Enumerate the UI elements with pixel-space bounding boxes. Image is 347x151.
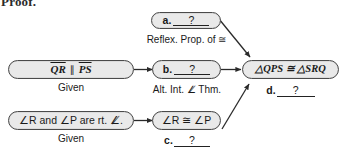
reason-d: d. ? — [242, 84, 339, 97]
statement-box-c[interactable]: ∠R ≅ ∠P — [152, 111, 221, 130]
parallel-symbol: ∥ — [70, 65, 75, 75]
statement-box-given-2[interactable]: ∠R and ∠P are rt. ∠̸. — [8, 111, 134, 130]
segment-ps: PS — [79, 64, 92, 75]
blank-d-value: ? — [277, 84, 315, 97]
blank-b: b. ? — [163, 64, 210, 76]
given-2-statement: ∠R and ∠P are rt. ∠̸. — [19, 115, 123, 126]
blank-b-prefix: b. — [163, 64, 172, 75]
reason-a: Reflex. Prop. of ≅ — [137, 34, 236, 45]
c-statement: ∠R ≅ ∠P — [162, 115, 211, 126]
blank-c-prefix: c. — [164, 134, 173, 146]
given-1-statement: QR ∥ PS — [50, 64, 91, 75]
blank-a: a. ? — [163, 15, 210, 27]
statement-box-conclusion[interactable]: △QPS ≅ △SRQ — [242, 60, 339, 79]
blank-d-prefix: d. — [266, 84, 275, 96]
conclusion-statement: △QPS ≅ △SRQ — [255, 64, 326, 75]
blank-a-value: ? — [173, 15, 209, 27]
segment-qr: QR — [50, 64, 65, 75]
statement-box-a[interactable]: a. ? — [151, 12, 221, 29]
statement-box-b[interactable]: b. ? — [152, 60, 221, 79]
statement-box-given-1[interactable]: QR ∥ PS — [8, 60, 134, 79]
reason-given-1: Given — [8, 82, 134, 93]
reason-given-2: Given — [8, 133, 134, 144]
reason-c: c. ? — [148, 134, 226, 147]
blank-b-value: ? — [174, 64, 210, 76]
blank-a-prefix: a. — [163, 15, 172, 26]
blank-c-value: ? — [174, 134, 210, 147]
proof-diagram: Proof. a. ? Reflex. Prop. of ≅ QR ∥ PS — [0, 0, 347, 151]
reason-b: Alt. Int. ∠̸ Thm. — [144, 84, 230, 95]
